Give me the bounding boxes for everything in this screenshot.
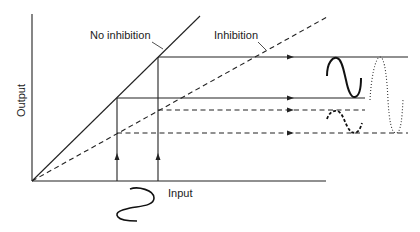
inhibition-label: Inhibition [214,29,258,41]
arrowhead [287,131,294,136]
inhibition-output-wave [327,111,362,133]
inhibition-curve [32,17,327,181]
inhibition-leader [258,42,266,50]
combined-output-wave [370,57,403,133]
inhibition-gain-diagram: Output Input No inhibition Inhibition [0,0,420,232]
arrowhead [156,153,161,160]
arrowhead [287,96,294,101]
input-signal-wave [117,188,154,221]
arrowhead [287,55,294,60]
x-axis-label: Input [168,187,192,199]
y-axis-label: Output [15,84,27,117]
arrowhead [287,108,294,113]
no-inhibition-output-wave [327,58,361,97]
arrowhead [115,153,120,160]
no-inhibition-label: No inhibition [90,29,151,41]
no-inhibition-leader [152,42,163,49]
